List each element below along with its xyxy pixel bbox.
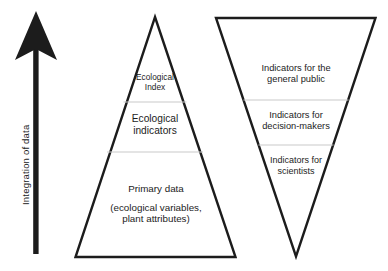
arrow-shaft — [33, 44, 38, 254]
diagram-canvas: Integration of data Ecological Index Eco… — [0, 0, 388, 271]
diagram-vector-layer — [0, 0, 388, 271]
data-integration-pyramid-shape — [76, 17, 236, 257]
pyramid-outline — [76, 17, 236, 257]
indicator-audience-triangle-shape — [216, 18, 376, 257]
inverted-triangle-outline — [216, 18, 376, 257]
integration-arrow — [15, 11, 57, 254]
